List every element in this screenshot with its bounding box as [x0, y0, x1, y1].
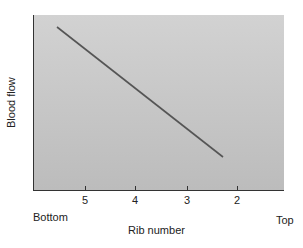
x-tick-2 — [237, 186, 238, 191]
y-axis-label: Blood flow — [5, 77, 17, 128]
x-tick-label: 2 — [227, 194, 247, 206]
x-tick-label: 3 — [177, 194, 197, 206]
bottom-end-label: Bottom — [33, 211, 68, 223]
x-tick-3 — [187, 186, 188, 191]
x-tick-5 — [85, 186, 86, 191]
x-tick-4 — [135, 186, 136, 191]
x-tick-label: 5 — [75, 194, 95, 206]
x-tick-label: 4 — [125, 194, 145, 206]
x-axis-label: Rib number — [0, 224, 303, 236]
